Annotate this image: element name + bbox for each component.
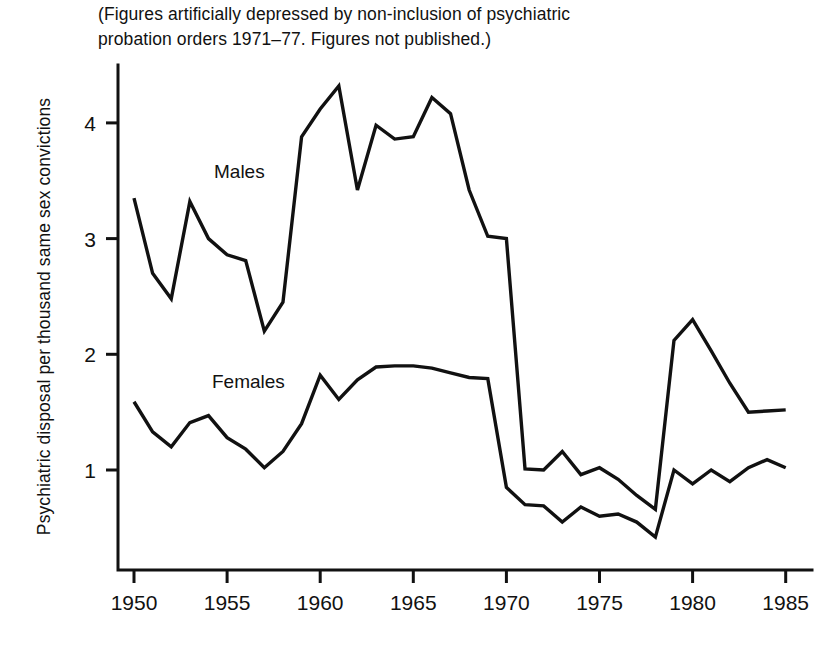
y-tick-label: 1: [84, 459, 96, 482]
y-tick-label: 3: [84, 228, 96, 251]
x-axis-ticks: 19501955196019651970197519801985: [111, 570, 809, 614]
x-tick-label: 1950: [111, 591, 158, 614]
plot-area: 1234 19501955196019651970197519801985 Ma…: [0, 0, 828, 647]
x-tick-label: 1960: [297, 591, 344, 614]
series-annotation-females: Females: [212, 371, 285, 392]
y-axis-label: Psychiatric disposal per thousand same s…: [34, 37, 55, 597]
chart-note: (Figures artificially depressed by non-i…: [98, 2, 798, 52]
y-axis-ticks: 1234: [84, 112, 118, 482]
x-tick-label: 1975: [576, 591, 623, 614]
x-tick-label: 1955: [204, 591, 251, 614]
series-annotation-males: Males: [214, 161, 265, 182]
axis-spine: [118, 65, 812, 570]
x-tick-label: 1980: [669, 591, 716, 614]
y-tick-label: 2: [84, 343, 96, 366]
series-group: [134, 86, 786, 537]
series-line-males: [134, 86, 786, 509]
y-tick-label: 4: [84, 112, 96, 135]
x-tick-label: 1965: [390, 591, 437, 614]
x-tick-label: 1985: [762, 591, 809, 614]
chart-figure: (Figures artificially depressed by non-i…: [0, 0, 828, 647]
x-tick-label: 1970: [483, 591, 530, 614]
